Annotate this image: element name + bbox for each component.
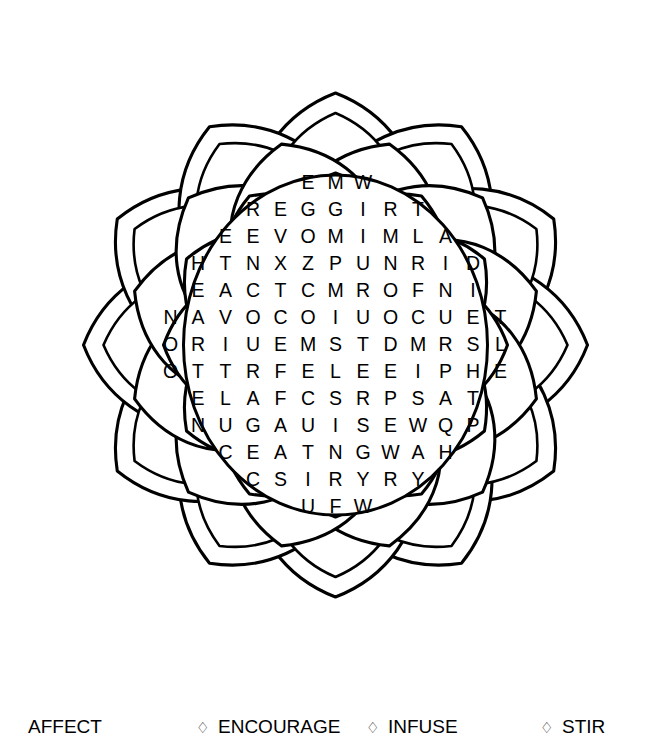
word-label: ENCOURAGE — [218, 716, 340, 736]
word-list-item-stir[interactable]: ♢ STIR — [540, 716, 605, 736]
diamond-bullet-icon: ♢ — [366, 717, 379, 736]
word-label: STIR — [562, 716, 605, 736]
word-search-puzzle-page: EMW REGGIRT EEVOMIMLA HTNXZPUNRID EACTCM… — [0, 0, 671, 736]
word-list-item-affect[interactable]: AFFECT — [28, 716, 102, 736]
mandala-svg — [0, 0, 671, 690]
word-list-item-encourage[interactable]: ♢ ENCOURAGE — [196, 716, 340, 736]
word-list: AFFECT ♢ ENCOURAGE ♢ INFUSE ♢ STIR — [0, 700, 671, 736]
diamond-bullet-icon: ♢ — [540, 717, 553, 736]
word-label: AFFECT — [28, 716, 102, 736]
word-list-item-infuse[interactable]: ♢ INFUSE — [366, 716, 458, 736]
mandala-center-circle — [184, 175, 488, 515]
diamond-bullet-icon: ♢ — [196, 717, 209, 736]
word-label: INFUSE — [388, 716, 458, 736]
mandala-artwork — [0, 0, 671, 690]
